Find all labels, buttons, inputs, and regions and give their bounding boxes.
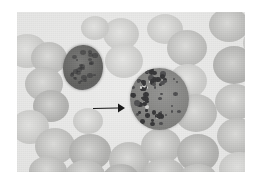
cytoplasmic-granule — [152, 83, 155, 86]
cytoplasmic-granule — [145, 113, 151, 118]
cytoplasmic-granule — [158, 97, 162, 101]
erythrocyte — [213, 46, 245, 84]
cytoplasmic-granule — [136, 113, 139, 116]
cytoplasmic-granule — [150, 122, 155, 126]
cytoplasmic-granule — [138, 111, 141, 114]
chromatin-speck — [93, 74, 96, 76]
cytoplasmic-granule — [149, 68, 154, 72]
erythrocyte — [209, 12, 245, 42]
cytoplasmic-granule — [131, 93, 136, 98]
cytoplasmic-granule — [160, 93, 163, 96]
chromatin-speck — [88, 58, 92, 61]
cytoplasmic-granule — [140, 119, 145, 124]
erythrocyte — [167, 30, 207, 66]
chromatin-speck — [92, 53, 97, 58]
cytoplasmic-granule — [160, 81, 165, 85]
cytoplasmic-granule — [131, 86, 134, 89]
cytoplasmic-granule — [143, 88, 146, 91]
chromatin-speck — [80, 67, 84, 71]
granulated-cell — [130, 68, 189, 130]
chromatin-speck — [87, 73, 93, 78]
cytoplasmic-granule — [159, 122, 162, 126]
cytoplasmic-granule — [177, 110, 181, 113]
chromatin-speck — [74, 77, 78, 80]
cytoplasmic-granule — [165, 114, 167, 116]
chromatin-speck — [83, 79, 87, 82]
erythrocyte — [215, 84, 245, 120]
erythrocyte — [219, 152, 245, 172]
micrograph-plate — [17, 12, 245, 172]
pointer-arrow-icon — [92, 101, 126, 115]
cytoplasmic-granule — [173, 92, 178, 96]
cytoplasmic-granule — [134, 100, 140, 106]
cytoplasmic-granule — [143, 92, 148, 97]
erythrocyte — [81, 16, 109, 40]
cytoplasmic-granule — [154, 86, 157, 88]
cytoplasmic-granule — [145, 109, 147, 112]
erythrocyte — [105, 44, 143, 78]
lymphocyte-cell — [63, 45, 103, 90]
cytoplasmic-granule — [156, 115, 159, 118]
chromatin-speck — [76, 59, 78, 61]
cytoplasmic-granule — [171, 110, 174, 112]
cytoplasmic-granule — [171, 105, 173, 107]
cytoplasmic-granule — [176, 81, 178, 83]
erythrocyte — [217, 118, 245, 154]
cytoplasmic-granule — [152, 77, 157, 82]
cytoplasmic-granule — [173, 78, 176, 80]
cytoplasmic-granule — [137, 79, 140, 82]
chromatin-speck — [71, 72, 74, 75]
chromatin-speck — [88, 50, 92, 54]
cytoplasmic-granule — [140, 86, 143, 89]
chromatin-speck — [80, 50, 86, 55]
chromatin-speck — [89, 62, 93, 65]
micrograph-canvas — [0, 0, 256, 184]
